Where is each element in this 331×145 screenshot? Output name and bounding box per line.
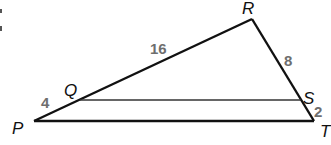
length-label-st: 2 — [314, 103, 322, 120]
length-label-rs: 8 — [284, 52, 292, 69]
triangle-diagram: R Q P S T 16 8 4 2 — [0, 0, 331, 145]
vertex-label-p: P — [12, 119, 24, 138]
vertex-label-t: T — [320, 122, 331, 141]
side-pr — [34, 19, 252, 121]
length-label-pq: 4 — [41, 94, 50, 111]
length-label-qr: 16 — [150, 40, 167, 57]
vertex-label-q: Q — [64, 81, 77, 100]
edge-mark — [0, 26, 2, 31]
edge-mark — [0, 9, 2, 13]
vertex-label-r: R — [242, 0, 254, 18]
